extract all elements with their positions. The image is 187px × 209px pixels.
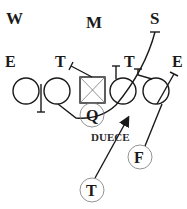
label-will: W bbox=[6, 9, 23, 28]
left-guard-circle bbox=[44, 78, 70, 104]
label-mike: M bbox=[86, 13, 102, 32]
label-left-tackle: T bbox=[55, 53, 66, 70]
label-fullback: F bbox=[134, 149, 144, 166]
label-left-end: E bbox=[5, 53, 16, 70]
play-diagram: W M S E T T E Q DUECE F bbox=[0, 0, 187, 209]
label-right-tackle: T bbox=[124, 53, 135, 70]
center-square bbox=[80, 77, 105, 103]
left-tackle-circle bbox=[13, 78, 39, 104]
right-tackle-block bbox=[134, 69, 152, 79]
play-name: DUECE bbox=[91, 131, 130, 143]
label-quarterback: Q bbox=[86, 107, 98, 124]
fullback-route bbox=[145, 104, 162, 146]
right-end-block bbox=[157, 72, 178, 104]
center-block bbox=[69, 62, 92, 77]
right-guard-block bbox=[112, 66, 120, 79]
label-right-end: E bbox=[172, 53, 183, 70]
tailback-route-arrow bbox=[95, 118, 128, 178]
label-tailback: T bbox=[86, 182, 97, 199]
label-sam: S bbox=[150, 9, 159, 28]
